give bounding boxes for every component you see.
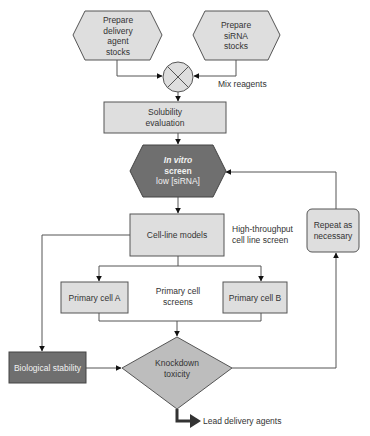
label-solubility: Solubility evaluation [104, 107, 226, 128]
connector-split-to-a [99, 266, 178, 281]
label-prepare-sirna: Prepare siRNA stocks [198, 20, 274, 52]
label-primary-b: Primary cell B [223, 293, 287, 304]
label-mix-reagents: Mix reagents [218, 79, 298, 90]
label-repeat: Repeat as necessary [307, 220, 359, 241]
label-primary-screens: Primary cell screens [140, 286, 216, 307]
mix-reagents-icon [163, 62, 193, 92]
connector-split-to-b [178, 266, 261, 281]
connector-repeat-to-invitro [226, 172, 336, 209]
lead-output-arrow [177, 409, 201, 428]
label-bio-stability: Biological stability [9, 363, 86, 374]
label-lead-delivery-agents: Lead delivery agents [203, 416, 323, 427]
label-prepare-delivery: Prepare delivery agent stocks [80, 15, 156, 57]
label-knockdown: Knockdown toxicity [137, 358, 217, 379]
label-primary-a: Primary cell A [61, 293, 128, 304]
label-in-vitro: In vitro screen low [siRNA] [130, 155, 226, 187]
label-cell-line: Cell-line models [130, 230, 224, 241]
connector-delivery-to-mix [117, 60, 162, 76]
label-high-throughput: High-throughput cell line screen [232, 224, 312, 245]
connector-sirna-to-mix [194, 60, 236, 76]
connector-a-join [99, 313, 261, 321]
